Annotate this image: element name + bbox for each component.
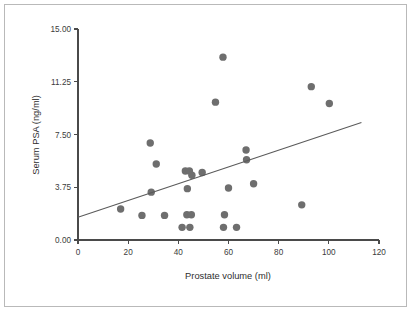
x-tick-label: 120	[372, 248, 386, 257]
data-points-layer	[117, 53, 333, 231]
y-axis-title: Serum PSA (ng/ml)	[31, 95, 41, 175]
data-point	[250, 180, 257, 187]
data-point	[188, 211, 195, 218]
data-point	[220, 224, 227, 231]
data-point	[147, 139, 154, 146]
data-point	[117, 205, 124, 212]
data-point	[221, 211, 228, 218]
data-point	[138, 212, 145, 219]
y-tick-label: 0.00	[55, 236, 71, 245]
y-tick-label: 3.75	[55, 183, 71, 192]
data-point	[184, 185, 191, 192]
data-point	[161, 212, 168, 219]
x-axis-title: Prostate volume (ml)	[185, 271, 271, 281]
y-tick-label: 11.25	[51, 78, 71, 87]
data-point	[308, 83, 315, 90]
y-tick-label: 15.00	[51, 25, 72, 34]
data-point	[186, 224, 193, 231]
scatter-plot: 0.003.757.5011.2515.00 020406080100120 P…	[5, 5, 406, 306]
data-point	[212, 98, 219, 105]
y-tick-label: 7.50	[55, 131, 71, 140]
data-point	[298, 201, 305, 208]
data-point	[153, 160, 160, 167]
x-axis-ticks: 020406080100120	[76, 240, 387, 257]
figure-frame: 0.003.757.5011.2515.00 020406080100120 P…	[4, 4, 407, 307]
y-axis-ticks: 0.003.757.5011.2515.00	[51, 25, 79, 245]
x-tick-label: 40	[174, 248, 184, 257]
regression-line	[78, 123, 361, 218]
x-tick-label: 20	[124, 248, 134, 257]
data-point	[178, 224, 185, 231]
data-point	[233, 224, 240, 231]
x-tick-label: 80	[274, 248, 284, 257]
data-point	[326, 100, 333, 107]
data-point	[225, 184, 232, 191]
x-tick-label: 0	[76, 248, 81, 257]
data-point	[219, 53, 226, 60]
x-tick-label: 60	[224, 248, 234, 257]
data-point	[242, 146, 249, 153]
x-tick-label: 100	[322, 248, 336, 257]
